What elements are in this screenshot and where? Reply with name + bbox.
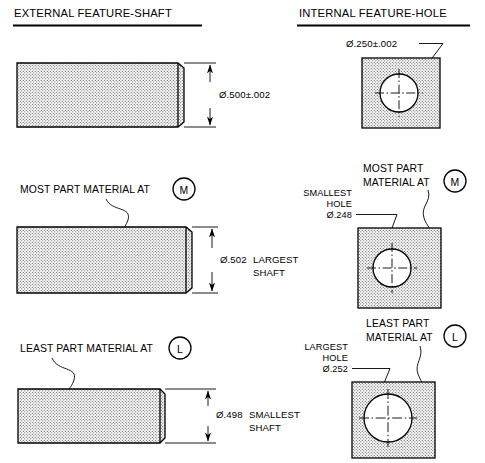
heading-external: EXTERNAL FEATURE-SHAFT: [14, 7, 172, 19]
hole-lmc-note-2: HOLE: [323, 353, 348, 363]
shaft-mmc-dimension: Ø.502: [220, 254, 247, 265]
technical-drawing-canvas: EXTERNAL FEATURE-SHAFT INTERNAL FEATURE-…: [0, 0, 485, 463]
lmc-modifier-symbol-right: L: [444, 325, 466, 347]
hole-lmc-figure: LEAST PART MATERIAL AT L LARGEST HOLE Ø.…: [304, 318, 466, 458]
hole-lmc-note-dim: Ø.252: [322, 364, 348, 374]
lmc-modifier-letter-right: L: [452, 332, 458, 343]
shaft-lmc-dimension-note-1: SMALLEST: [249, 409, 300, 420]
shaft-mmc-body: [17, 227, 192, 293]
shaft-lmc-dimension-note-2: SHAFT: [249, 422, 281, 433]
shaft-lmc-figure: LEAST PART MATERIAL AT L Ø.498 SMALLEST …: [18, 337, 300, 443]
shaft-nominal-dimension: Ø.500±.002: [219, 89, 270, 100]
hole-lmc-note-1: LARGEST: [304, 342, 348, 352]
shaft-lmc-callout: LEAST PART MATERIAL AT: [20, 343, 153, 354]
shaft-mmc-figure: MOST PART MATERIAL AT M Ø.502 LARGEST SH…: [17, 178, 299, 293]
shaft-mmc-callout: MOST PART MATERIAL AT: [20, 184, 150, 195]
hole-mmc-note-dim: Ø.248: [326, 210, 352, 220]
drawing-sheet: EXTERNAL FEATURE-SHAFT INTERNAL FEATURE-…: [0, 0, 485, 463]
shaft-mmc-dimension-note-2: SHAFT: [253, 267, 285, 278]
hole-mmc-callout-2: MATERIAL AT: [363, 177, 430, 188]
shaft-nominal-body: [17, 63, 184, 127]
hole-nominal-dimension: Ø.250±.002: [346, 38, 397, 49]
hole-mmc-note-2: HOLE: [327, 199, 352, 209]
mmc-modifier-symbol-right: M: [444, 170, 466, 192]
mmc-modifier-letter-right: M: [451, 177, 460, 188]
shaft-nominal-figure: Ø.500±.002: [17, 63, 270, 127]
mmc-modifier-symbol-left: M: [173, 178, 195, 200]
shaft-lmc-body: [18, 389, 165, 443]
hole-mmc-callout-1: MOST PART: [363, 163, 424, 174]
shaft-lmc-dimension: Ø.498: [216, 409, 243, 420]
hole-mmc-figure: MOST PART MATERIAL AT M SMALLEST HOLE Ø.…: [303, 163, 466, 308]
lmc-modifier-symbol-left: L: [169, 337, 191, 359]
lmc-modifier-letter-left: L: [177, 344, 183, 355]
heading-internal: INTERNAL FEATURE-HOLE: [299, 7, 447, 19]
hole-nominal-figure: Ø.250±.002: [346, 38, 443, 128]
hole-mmc-note-1: SMALLEST: [303, 188, 352, 198]
hole-lmc-callout-1: LEAST PART: [366, 318, 430, 329]
hole-lmc-callout-2: MATERIAL AT: [366, 332, 433, 343]
mmc-modifier-letter-left: M: [180, 185, 189, 196]
shaft-mmc-dimension-note-1: LARGEST: [253, 254, 299, 265]
